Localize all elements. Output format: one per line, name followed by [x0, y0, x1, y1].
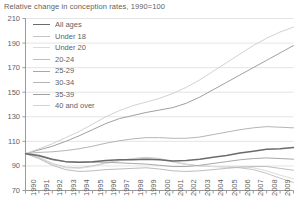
x-tick-label: 2008 — [270, 179, 279, 196]
legend-item-all-ages[interactable]: All ages — [33, 19, 95, 31]
y-tick-label: 170 — [0, 63, 20, 72]
legend-line-swatch-icon — [33, 24, 50, 25]
legend-label: 20-24 — [55, 56, 74, 64]
y-tick-label: 190 — [0, 39, 20, 48]
y-tick-label: 130 — [0, 112, 20, 121]
legend-item-40-and-over[interactable]: 40 and over — [33, 100, 95, 112]
x-tick-label: 1993 — [69, 179, 78, 196]
y-tick-label: 150 — [0, 88, 20, 97]
x-tick-label: 2002 — [189, 179, 198, 196]
legend-label: 40 and over — [55, 102, 95, 110]
legend-label: 25-29 — [55, 67, 74, 75]
legend-line-swatch-icon — [33, 82, 50, 83]
x-tick-label: 1992 — [55, 179, 64, 196]
y-tick-label: 110 — [0, 137, 20, 146]
legend-line-swatch-icon — [33, 59, 50, 60]
x-tick-label: 2004 — [216, 179, 225, 196]
x-tick-label: 1995 — [96, 179, 105, 196]
y-tick-label: 210 — [0, 14, 20, 23]
legend-label: All ages — [55, 21, 82, 29]
x-tick-label: 1994 — [82, 179, 91, 196]
legend-label: Under 20 — [55, 44, 86, 52]
x-tick-label: 2010 — [297, 179, 298, 196]
chart-legend: All agesUnder 18Under 2020-2425-2930-343… — [33, 19, 95, 112]
legend-item-30-34[interactable]: 30-34 — [33, 77, 95, 89]
x-tick-label: 1990 — [29, 179, 38, 196]
x-tick-label: 2005 — [230, 179, 239, 196]
x-tick-label: 1999 — [149, 179, 158, 196]
x-tick-label: 2007 — [256, 179, 265, 196]
legend-item-35-39[interactable]: 35-39 — [33, 89, 95, 101]
x-tick-label: 2001 — [176, 179, 185, 196]
legend-item-under-20[interactable]: Under 20 — [33, 42, 95, 54]
x-tick-label: 2009 — [283, 179, 292, 196]
x-tick-label: 1997 — [122, 179, 131, 196]
x-tick-label: 2000 — [163, 179, 172, 196]
legend-label: 30-34 — [55, 79, 74, 87]
conception-rates-chart: Relative change in conception rates, 199… — [0, 0, 298, 221]
x-tick-label: 1996 — [109, 179, 118, 196]
legend-line-swatch-icon — [33, 71, 50, 72]
legend-item-under-18[interactable]: Under 18 — [33, 31, 95, 43]
y-tick-label: 70 — [0, 186, 20, 195]
legend-label: Under 18 — [55, 33, 86, 41]
legend-item-20-24[interactable]: 20-24 — [33, 54, 95, 66]
legend-line-swatch-icon — [33, 47, 50, 48]
x-tick-label: 1998 — [136, 179, 145, 196]
legend-label: 35-39 — [55, 91, 74, 99]
legend-line-swatch-icon — [33, 94, 50, 95]
x-tick-label: 2006 — [243, 179, 252, 196]
legend-line-swatch-icon — [33, 36, 50, 37]
x-tick-label: 1991 — [42, 179, 51, 196]
y-tick-label: 90 — [0, 161, 20, 170]
legend-line-swatch-icon — [33, 105, 50, 106]
legend-item-25-29[interactable]: 25-29 — [33, 65, 95, 77]
x-tick-label: 2003 — [203, 179, 212, 196]
